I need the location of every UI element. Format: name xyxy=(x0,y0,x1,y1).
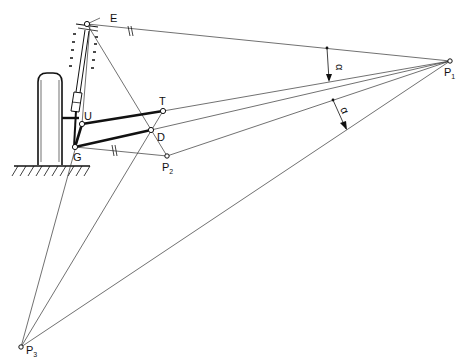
angle-markers: α α xyxy=(326,47,352,130)
point-G xyxy=(72,144,77,149)
point-T xyxy=(160,108,165,113)
suspension-diagram: α α E U T D G P1 P2 P3 xyxy=(0,0,466,358)
point-P2 xyxy=(165,154,169,158)
upper-link-U-T xyxy=(82,111,163,124)
line-P3-P1 xyxy=(21,61,450,347)
label-U: U xyxy=(84,110,92,122)
strut xyxy=(69,24,98,147)
point-P3 xyxy=(19,345,23,349)
angle-label-2: α xyxy=(338,105,352,116)
diagram-canvas: α α E U T D G P1 P2 P3 xyxy=(0,0,466,358)
label-T: T xyxy=(159,95,166,107)
point-D xyxy=(148,127,153,132)
pivot-points xyxy=(19,21,452,349)
line-D-P1 xyxy=(151,61,450,130)
point-E xyxy=(84,21,89,26)
label-P2: P2 xyxy=(162,161,173,175)
line-E-P1 xyxy=(87,24,450,61)
label-P3: P3 xyxy=(26,344,37,358)
label-P1: P1 xyxy=(444,66,455,80)
construction-lines xyxy=(21,18,450,347)
lower-link-G-D xyxy=(75,130,151,147)
angle-label-1: α xyxy=(334,64,346,71)
line-P2-P1 xyxy=(167,61,450,156)
point-labels: E U T D G P1 P2 P3 xyxy=(26,12,455,358)
line-G-P2 xyxy=(75,147,167,156)
line-T-P1 xyxy=(163,61,450,111)
label-E: E xyxy=(110,12,117,24)
label-D: D xyxy=(157,131,165,143)
point-P1 xyxy=(448,59,452,63)
label-G: G xyxy=(73,151,82,163)
ground xyxy=(12,166,90,176)
point-U xyxy=(79,121,84,126)
